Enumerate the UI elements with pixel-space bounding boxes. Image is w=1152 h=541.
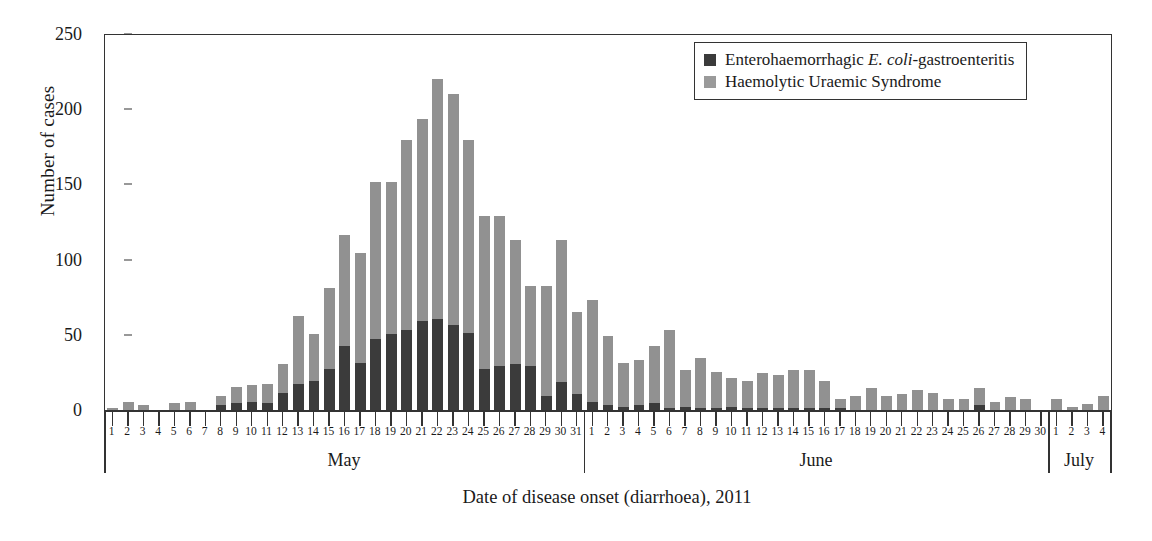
bar-segment-hus bbox=[572, 312, 583, 395]
x-tick-mark bbox=[932, 411, 933, 426]
bar-segment-hus bbox=[711, 372, 722, 408]
y-tick-label: 50 bbox=[34, 324, 90, 345]
bar-may-11 bbox=[262, 384, 273, 411]
bar-segment-hus bbox=[959, 399, 970, 410]
bar-segment-hus bbox=[990, 402, 1001, 410]
x-tick-label: 2 bbox=[124, 425, 130, 437]
x-tick-mark bbox=[963, 411, 964, 426]
bar-segment-hus bbox=[603, 336, 614, 405]
x-tick-mark bbox=[143, 411, 144, 426]
bar-segment-ehec bbox=[494, 366, 505, 411]
x-tick-label: 5 bbox=[171, 425, 177, 437]
x-tick-label: 10 bbox=[245, 425, 257, 437]
x-tick-label: 25 bbox=[477, 425, 489, 437]
bar-segment-hus bbox=[448, 94, 459, 326]
bar-segment-ehec bbox=[448, 325, 459, 411]
x-tick-mark bbox=[607, 411, 608, 426]
x-axis-title: Date of disease onset (diarrhoea), 2011 bbox=[104, 487, 1110, 508]
bar-segment-ehec bbox=[432, 319, 443, 411]
bar-segment-hus bbox=[494, 216, 505, 366]
bar-segment-ehec bbox=[479, 369, 490, 411]
bar-segment-hus bbox=[742, 381, 753, 408]
x-tick-label: 6 bbox=[666, 425, 672, 437]
x-tick-label: 3 bbox=[140, 425, 146, 437]
x-tick-label: 4 bbox=[155, 425, 161, 437]
bar-segment-hus bbox=[788, 370, 799, 408]
x-tick-mark bbox=[359, 411, 360, 426]
bar-may-18 bbox=[370, 182, 381, 411]
x-tick-mark bbox=[762, 411, 763, 426]
x-tick-mark bbox=[731, 411, 732, 426]
bar-jun-7 bbox=[680, 370, 691, 411]
bar-may-9 bbox=[231, 387, 242, 411]
x-tick-label: 26 bbox=[973, 425, 985, 437]
x-tick-mark bbox=[622, 411, 623, 426]
bar-segment-hus bbox=[510, 240, 521, 365]
x-tick-label: 8 bbox=[697, 425, 703, 437]
bar-segment-hus bbox=[912, 390, 923, 410]
x-tick-label: 18 bbox=[369, 425, 381, 437]
x-tick-mark bbox=[483, 411, 484, 426]
bar-segment-hus bbox=[247, 385, 258, 402]
bar-may-29 bbox=[541, 286, 552, 411]
bar-jun-11 bbox=[742, 381, 753, 411]
bar-may-17 bbox=[355, 253, 366, 411]
bar-segment-hus bbox=[401, 140, 412, 330]
bar-segment-hus bbox=[773, 375, 784, 408]
x-tick-mark bbox=[174, 411, 175, 426]
bar-may-10 bbox=[247, 385, 258, 411]
bar-segment-ehec bbox=[324, 369, 335, 411]
x-tick-label: 28 bbox=[524, 425, 536, 437]
bar-segment-hus bbox=[974, 388, 985, 405]
x-tick-mark bbox=[700, 411, 701, 426]
x-tick-label: 27 bbox=[988, 425, 1000, 437]
x-tick-mark bbox=[344, 411, 345, 426]
x-tick-mark bbox=[1025, 411, 1026, 426]
x-tick-label: 23 bbox=[926, 425, 938, 437]
bar-may-24 bbox=[463, 140, 474, 411]
bar-may-23 bbox=[448, 94, 459, 411]
x-tick-label: 19 bbox=[864, 425, 876, 437]
x-tick-mark bbox=[375, 411, 376, 426]
x-tick-mark bbox=[282, 411, 283, 426]
x-tick-label: 11 bbox=[741, 425, 752, 437]
x-tick-mark bbox=[313, 411, 314, 426]
bar-may-16 bbox=[339, 235, 350, 411]
x-tick-mark bbox=[777, 411, 778, 426]
bar-segment-hus bbox=[726, 378, 737, 407]
x-tick-label: 28 bbox=[1004, 425, 1016, 437]
bar-jun-6 bbox=[664, 330, 675, 411]
x-tick-mark bbox=[158, 411, 159, 426]
bar-may-13 bbox=[293, 316, 304, 411]
x-tick-label: 16 bbox=[338, 425, 350, 437]
x-tick-mark bbox=[917, 411, 918, 426]
x-tick-label: 10 bbox=[725, 425, 737, 437]
bar-may-26 bbox=[494, 215, 505, 411]
y-tick-label: 0 bbox=[34, 400, 90, 421]
x-tick-label: 18 bbox=[849, 425, 861, 437]
x-tick-label: 13 bbox=[771, 425, 783, 437]
bar-segment-hus bbox=[417, 119, 428, 321]
x-tick-label: 8 bbox=[217, 425, 223, 437]
bar-segment-hus bbox=[850, 396, 861, 410]
bar-may-31 bbox=[572, 312, 583, 411]
bar-segment-ehec bbox=[572, 394, 583, 411]
bar-jun-18 bbox=[850, 396, 861, 411]
bar-jun-5 bbox=[649, 346, 660, 411]
bar-segment-hus bbox=[293, 316, 304, 384]
epidemic-curve-figure: Number of cases 050100150200250 12345678… bbox=[0, 0, 1152, 541]
x-tick-label: 4 bbox=[1099, 425, 1105, 437]
x-tick-mark bbox=[205, 411, 206, 426]
x-tick-mark bbox=[901, 411, 902, 426]
month-separator bbox=[104, 411, 106, 473]
bar-may-20 bbox=[401, 140, 412, 411]
x-tick-mark bbox=[1087, 411, 1088, 426]
x-tick-label: 21 bbox=[895, 425, 907, 437]
month-separator bbox=[1110, 411, 1112, 473]
bar-segment-hus bbox=[216, 396, 227, 405]
x-tick-label: 20 bbox=[880, 425, 892, 437]
bar-segment-hus bbox=[757, 373, 768, 408]
bar-segment-hus bbox=[618, 363, 629, 407]
x-tick-label: 30 bbox=[1035, 425, 1047, 437]
x-tick-label: 2 bbox=[604, 425, 610, 437]
